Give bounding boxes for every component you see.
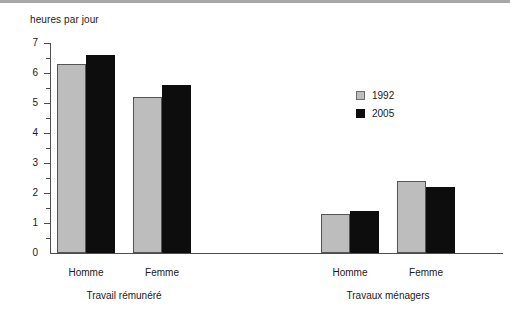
x-label-menagers-homme: Homme: [310, 267, 390, 278]
bar-1992-menagers-femme: [397, 181, 426, 253]
y-tick-label-4: 4: [16, 128, 38, 138]
y-tick-minor-3_5: [46, 148, 50, 149]
group-label-travail-remunere: Travail rémunéré: [64, 290, 184, 301]
x-axis-baseline: [50, 253, 503, 254]
legend-swatch-icon-2005: [356, 109, 365, 118]
y-tick-minor-6_5: [46, 58, 50, 59]
y-tick-7: [44, 43, 50, 44]
y-tick-label-7: 7: [16, 38, 38, 48]
x-label-menagers-femme: Femme: [386, 267, 466, 278]
bar-1992-travail-homme: [57, 64, 86, 253]
bar-2005-menagers-homme: [350, 211, 379, 253]
y-axis-title: heures par jour: [30, 14, 99, 26]
legend-swatch-icon-1992: [356, 91, 365, 100]
y-tick-minor-4_5: [46, 118, 50, 119]
y-tick-label-2: 2: [16, 188, 38, 198]
y-tick-label-0: 0: [16, 248, 38, 258]
y-tick-6: [44, 73, 50, 74]
y-tick-2: [44, 193, 50, 194]
bar-1992-travail-femme: [133, 97, 162, 253]
bar-1992-menagers-homme: [321, 214, 350, 253]
group-label-travaux-menagers: Travaux ménagers: [328, 290, 448, 301]
y-tick-label-5: 5: [16, 98, 38, 108]
legend-item-1992: 1992: [356, 86, 394, 104]
bar-2005-menagers-femme: [426, 187, 455, 253]
legend-item-2005: 2005: [356, 104, 394, 122]
y-tick-minor-0_5: [46, 238, 50, 239]
top-divider: [0, 0, 510, 3]
x-label-travail-homme: Homme: [46, 267, 126, 278]
x-label-travail-femme: Femme: [122, 267, 202, 278]
bar-2005-travail-homme: [86, 55, 115, 253]
y-tick-4: [44, 133, 50, 134]
y-tick-5: [44, 103, 50, 104]
y-tick-label-3: 3: [16, 158, 38, 168]
y-tick-label-6: 6: [16, 68, 38, 78]
bar-2005-travail-femme: [162, 85, 191, 253]
y-tick-minor-5_5: [46, 88, 50, 89]
y-tick-minor-2_5: [46, 178, 50, 179]
y-tick-label-1: 1: [16, 218, 38, 228]
legend: 1992 2005: [356, 86, 394, 122]
y-tick-1: [44, 223, 50, 224]
legend-label-2005: 2005: [372, 108, 394, 119]
y-tick-minor-1_5: [46, 208, 50, 209]
legend-label-1992: 1992: [372, 90, 394, 101]
bar-chart: heures par jour 7 6 5 4 3 2 1 0 Homme Fe…: [0, 0, 510, 318]
y-tick-3: [44, 163, 50, 164]
y-axis-line: [50, 43, 51, 254]
